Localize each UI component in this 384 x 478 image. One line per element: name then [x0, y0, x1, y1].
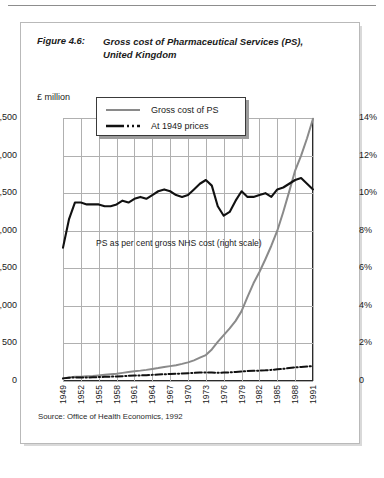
page-top-rule [8, 5, 376, 6]
legend-item-1949-prices: At 1949 prices [105, 119, 209, 133]
y-tick-right: 2% [359, 337, 384, 347]
legend-label-1949-prices: At 1949 prices [151, 121, 209, 131]
y-tick-left: 2,500 [0, 187, 17, 197]
chart-legend: Gross cost of PS At 1949 prices [96, 97, 246, 136]
x-tick: 1985 [272, 385, 282, 404]
figure-container: Figure 4.6: Gross cost of Pharmaceutical… [20, 22, 360, 444]
gridline-horizontal [63, 381, 313, 382]
series-line [63, 366, 313, 378]
x-tick: 1958 [112, 385, 122, 404]
x-tick: 1976 [219, 385, 229, 404]
x-tick: 1973 [201, 385, 211, 404]
legend-swatch-solid-icon [105, 105, 141, 115]
x-tick: 1979 [237, 385, 247, 404]
y-axis-left-label: £ million [37, 92, 70, 102]
y-tick-right: 6% [359, 262, 384, 272]
figure-title-line-2: United Kingdom [103, 48, 303, 61]
x-tick: 1988 [290, 385, 300, 404]
figure-title: Gross cost of Pharmaceutical Services (P… [103, 35, 303, 61]
figure-screenshot: Figure 4.6: Gross cost of Pharmaceutical… [0, 0, 384, 478]
x-tick: 1970 [183, 385, 193, 404]
x-tick: 1991 [308, 385, 318, 404]
y-tick-left: 1,000 [0, 300, 17, 310]
x-tick: 1964 [147, 385, 157, 404]
y-tick-right: 14% [359, 112, 384, 122]
x-tick: 1967 [165, 385, 175, 404]
y-tick-left: 500 [0, 337, 17, 347]
legend-swatch-dashdot-icon [105, 121, 141, 131]
x-tick: 1952 [76, 385, 86, 404]
x-tick: 1955 [94, 385, 104, 404]
y-tick-left: 3,000 [0, 150, 17, 160]
x-tick: 1961 [129, 385, 139, 404]
y-tick-right: 12% [359, 150, 384, 160]
figure-number: Figure 4.6: [37, 35, 85, 61]
x-tick: 1949 [58, 385, 68, 404]
percent-annotation: PS as per cent gross NHS cost (right sca… [96, 238, 262, 248]
y-tick-right: 8% [359, 225, 384, 235]
gridline-vertical [313, 118, 314, 381]
series-lines [63, 118, 313, 381]
legend-label-gross-cost: Gross cost of PS [151, 105, 219, 115]
figure-source: Source: Office of Health Economics, 1992 [38, 412, 183, 421]
y-tick-left: 1,500 [0, 262, 17, 272]
y-tick-right: 0 [359, 375, 384, 385]
legend-item-gross-cost: Gross cost of PS [105, 103, 219, 117]
x-tick: 1982 [254, 385, 264, 404]
y-tick-right: 4% [359, 300, 384, 310]
y-tick-right: 10% [359, 187, 384, 197]
y-tick-left: 3,500 [0, 112, 17, 122]
plot-area: 3,5003,0002,5002,0001,5001,0005000 14%12… [63, 118, 313, 381]
series-line [63, 119, 313, 379]
figure-heading: Figure 4.6: Gross cost of Pharmaceutical… [37, 35, 349, 61]
figure-title-line-1: Gross cost of Pharmaceutical Services (P… [103, 35, 303, 48]
y-tick-left: 0 [0, 375, 17, 385]
y-tick-left: 2,000 [0, 225, 17, 235]
